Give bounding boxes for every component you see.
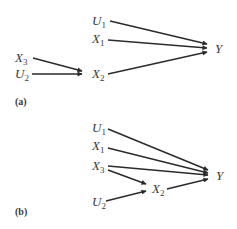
panel-label-a: (a) (15, 96, 27, 108)
node-a-U2: U2 (15, 66, 29, 83)
panel-label-b: (b) (15, 206, 27, 218)
node-b-X1: X1 (91, 138, 104, 155)
edge-b-U1-Y (108, 129, 208, 170)
edge-a-X2-Y (108, 52, 207, 74)
edge-b-X2-Y (167, 179, 208, 189)
node-b-U1: U1 (92, 120, 106, 137)
edge-b-U2-X2 (106, 191, 146, 201)
node-a-X2: X2 (91, 66, 104, 83)
node-a-X3: X3 (14, 50, 28, 67)
diagram-a: U1 X1 X3 U2 X2 Y (a) (14, 13, 224, 108)
edge-a-X1-Y (108, 40, 207, 48)
node-b-Y: Y (216, 168, 225, 183)
node-b-U2: U2 (92, 194, 106, 211)
edge-a-U1-Y (110, 21, 207, 44)
node-b-X2: X2 (151, 181, 164, 198)
node-b-X3: X3 (91, 158, 105, 175)
edge-b-X3-X2 (108, 170, 146, 184)
node-a-Y: Y (215, 41, 224, 56)
edge-b-X1-Y (108, 148, 208, 173)
node-a-X1: X1 (91, 31, 104, 48)
edge-a-X3-X2 (33, 58, 82, 71)
node-a-U1: U1 (92, 13, 106, 30)
diagram-b: U1 X1 X3 X2 U2 Y (b) (15, 120, 225, 218)
causal-diagrams: U1 X1 X3 U2 X2 Y (a) U1 X1 X3 X2 U2 Y (b… (0, 0, 237, 229)
edge-b-X3-Y (108, 166, 208, 175)
